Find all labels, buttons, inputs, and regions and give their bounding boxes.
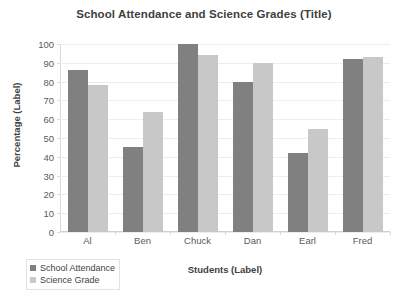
bar	[343, 59, 363, 232]
plot-area: 0102030405060708090100	[60, 44, 390, 232]
bar-groups	[60, 44, 390, 232]
y-tick-label: 10	[43, 208, 54, 219]
x-tick-mark	[390, 232, 391, 235]
y-tick-label: 50	[43, 133, 54, 144]
legend-swatch-science-grade	[30, 277, 36, 283]
y-tick-label: 40	[43, 151, 54, 162]
y-tick-label: 30	[43, 170, 54, 181]
legend-label-science-grade: Science Grade	[40, 275, 100, 285]
legend-item-science-grade: Science Grade	[30, 274, 115, 286]
chart-legend: School Attendance Science Grade	[26, 259, 120, 290]
y-tick-label: 90	[43, 57, 54, 68]
legend-label-school-attendance: School Attendance	[40, 263, 115, 273]
x-category-label: Al	[60, 235, 115, 246]
chart-title: School Attendance and Science Grades (Ti…	[0, 8, 408, 20]
bar-group	[170, 44, 225, 232]
bar	[233, 82, 253, 232]
y-tick-label: 80	[43, 76, 54, 87]
bar-group	[60, 44, 115, 232]
bar	[288, 153, 308, 232]
x-category-label: Dan	[225, 235, 280, 246]
y-tick-label: 60	[43, 114, 54, 125]
x-category-label: Earl	[280, 235, 335, 246]
bar	[68, 70, 88, 232]
bar	[253, 63, 273, 232]
y-tick-mark	[57, 232, 60, 233]
x-category-label: Fred	[335, 235, 390, 246]
y-tick-label: 70	[43, 95, 54, 106]
bar-group	[280, 44, 335, 232]
bar	[178, 44, 198, 232]
y-axis-title: Percentage (Label)	[10, 60, 24, 190]
bar-group	[115, 44, 170, 232]
legend-swatch-school-attendance	[30, 265, 36, 271]
y-tick-label: 100	[38, 39, 54, 50]
x-axis-labels: AlBenChuckDanEarlFred	[60, 235, 390, 246]
y-tick-label: 20	[43, 189, 54, 200]
bar	[88, 85, 108, 232]
x-category-label: Chuck	[170, 235, 225, 246]
bar-chart: School Attendance and Science Grades (Ti…	[0, 0, 408, 301]
bar	[198, 55, 218, 232]
legend-item-school-attendance: School Attendance	[30, 262, 115, 274]
bar	[363, 57, 383, 232]
bar	[123, 147, 143, 232]
bar	[143, 112, 163, 232]
bar-group	[225, 44, 280, 232]
x-category-label: Ben	[115, 235, 170, 246]
bar	[308, 129, 328, 232]
bar-group	[335, 44, 390, 232]
y-tick-label: 0	[49, 227, 54, 238]
